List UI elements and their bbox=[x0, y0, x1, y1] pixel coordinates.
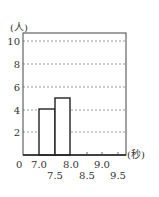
bar-7.5-8.0 bbox=[55, 98, 70, 155]
y-axis-unit: (人) bbox=[10, 22, 28, 33]
x-tick-7.5: 7.5 bbox=[47, 170, 63, 181]
origin-label: 0 bbox=[16, 159, 22, 170]
histogram-chart: (人) 10 8 6 4 2 0 7.0 8.0 9.0 7.5 8.5 9.5… bbox=[0, 0, 159, 197]
x-tick-8.5: 8.5 bbox=[79, 170, 95, 181]
y-tick-4: 4 bbox=[14, 105, 20, 116]
y-tick-2: 2 bbox=[14, 127, 20, 138]
x-axis-unit: (秒) bbox=[127, 148, 145, 160]
x-tick-9.5: 9.5 bbox=[110, 170, 126, 181]
bars bbox=[39, 98, 70, 155]
x-tick-labels-lower: 7.5 8.5 9.5 bbox=[47, 170, 126, 181]
y-tick-6: 6 bbox=[14, 82, 20, 93]
y-tick-8: 8 bbox=[14, 59, 20, 70]
bar-7.0-7.5 bbox=[39, 109, 55, 155]
x-tick-8.0: 8.0 bbox=[63, 159, 79, 170]
y-tick-labels: 10 8 6 4 2 bbox=[7, 36, 20, 138]
x-tick-9.0: 9.0 bbox=[94, 159, 110, 170]
x-tick-7.0: 7.0 bbox=[31, 159, 47, 170]
x-tick-labels-upper: 7.0 8.0 9.0 bbox=[31, 159, 110, 170]
y-tick-10: 10 bbox=[7, 36, 20, 47]
